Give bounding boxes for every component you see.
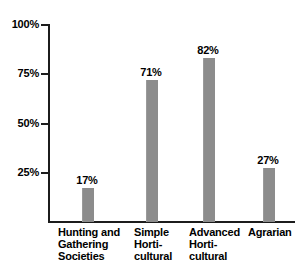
bar-value-label-advanced-horticultural: 82% bbox=[185, 44, 231, 56]
x-category-label-hunting-and-gathering-societies: Hunting and Gathering Societies bbox=[58, 226, 120, 262]
y-tick-label-50: 50% bbox=[0, 117, 39, 129]
x-category-label-simple-horticultural: Simple Horti- cultural bbox=[134, 226, 172, 262]
x-category-label-agrarian: Agrarian bbox=[248, 226, 292, 238]
bar-agrarian bbox=[263, 168, 275, 222]
y-tick-mark-100 bbox=[41, 24, 49, 26]
y-tick-label-25: 25% bbox=[0, 166, 39, 178]
x-category-label-advanced-horticultural: Advanced Horti- cultural bbox=[189, 226, 240, 262]
bar-hunting-and-gathering-societies bbox=[82, 188, 94, 222]
bar-simple-horticultural bbox=[146, 80, 158, 222]
y-tick-mark-25 bbox=[41, 172, 49, 174]
bar-value-label-agrarian: 27% bbox=[245, 154, 291, 166]
y-tick-mark-75 bbox=[41, 73, 49, 75]
y-tick-mark-50 bbox=[41, 123, 49, 125]
bar-advanced-horticultural bbox=[203, 58, 215, 222]
y-tick-label-100: 100% bbox=[0, 18, 39, 30]
y-tick-label-75: 75% bbox=[0, 67, 39, 79]
bar-chart: 100% 75% 50% 25% 17% 71% 82% 27% Hunting… bbox=[0, 0, 304, 272]
bar-value-label-hunting-and-gathering-societies: 17% bbox=[64, 174, 110, 186]
bar-value-label-simple-horticultural: 71% bbox=[128, 66, 174, 78]
